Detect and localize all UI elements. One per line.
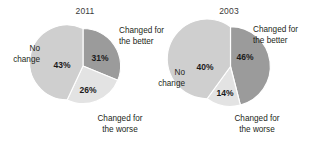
callout-right-worse: Changed for the worse <box>225 114 289 135</box>
callout-right-worse-line2: the worse <box>225 125 289 136</box>
slice-value-left-better: 31% <box>88 53 112 63</box>
callout-right-nochange: No change <box>145 68 185 89</box>
callout-right-worse-line1: Changed for <box>225 114 289 125</box>
slice-value-left-worse: 26% <box>76 85 100 95</box>
callout-left-worse-line1: Changed for <box>88 114 152 125</box>
callout-left-better-line1: Changed for <box>119 26 175 37</box>
callout-left-nochange-line1: No <box>0 44 40 55</box>
chart-title-right: 2003 <box>204 6 254 16</box>
callout-right-better-line1: Changed for <box>253 25 309 36</box>
callout-left-better-line2: the better <box>119 37 175 48</box>
chart-title-left: 2011 <box>60 6 110 16</box>
pie-charts-figure: 2011 31% 26% 43% No change Changed for t… <box>0 0 309 145</box>
callout-left-nochange-line2: change <box>0 55 40 66</box>
callout-left-worse: Changed for the worse <box>88 114 152 135</box>
slice-value-right-better: 46% <box>233 52 257 62</box>
callout-right-nochange-line2: change <box>145 79 185 90</box>
callout-right-better-line2: the better <box>253 36 309 47</box>
slice-value-right-worse: 14% <box>213 88 237 98</box>
callout-right-better: Changed for the better <box>253 25 309 46</box>
callout-left-better: Changed for the better <box>119 26 175 47</box>
callout-left-worse-line2: the worse <box>88 125 152 136</box>
callout-left-nochange: No change <box>0 44 40 65</box>
slice-value-left-nochange: 43% <box>50 60 74 70</box>
slice-value-right-nochange: 40% <box>193 62 217 72</box>
callout-right-nochange-line1: No <box>145 68 185 79</box>
